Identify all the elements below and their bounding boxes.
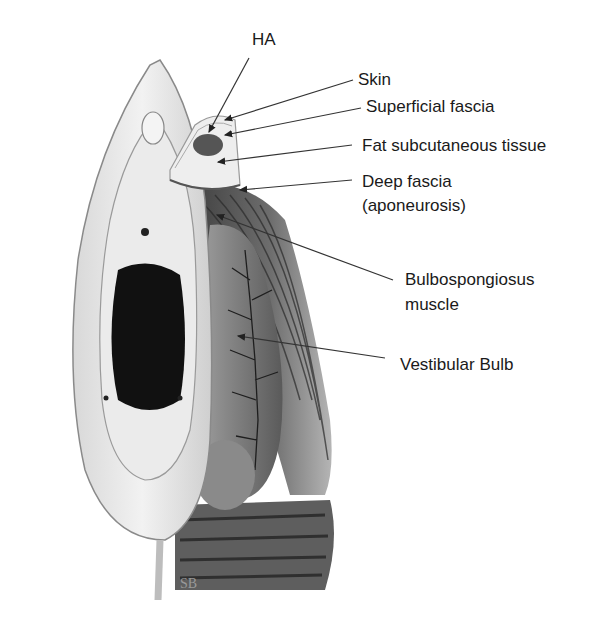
label-deep-fascia: Deep fascia [362, 172, 452, 192]
label-skin: Skin [358, 70, 391, 90]
leader-superficial-fascia [225, 108, 361, 135]
lower-muscle-band [175, 500, 334, 590]
artist-signature: SB [180, 576, 197, 591]
label-aponeurosis: (aponeurosis) [362, 196, 466, 216]
vaginal-opening [112, 264, 186, 410]
ha-deposit [193, 134, 223, 156]
anatomy-illustration: SB [0, 0, 616, 618]
label-ha: HA [252, 30, 276, 50]
leader-deep-fascia [240, 180, 352, 190]
label-muscle: muscle [405, 295, 459, 315]
label-fat-subcutaneous-tissue: Fat subcutaneous tissue [362, 136, 546, 156]
clitoris [142, 112, 164, 144]
label-superficial-fascia: Superficial fascia [366, 97, 495, 117]
label-bulbospongiosus: Bulbospongiosus [405, 270, 534, 290]
urethral-opening [141, 228, 149, 236]
label-vestibular-bulb: Vestibular Bulb [400, 355, 513, 375]
